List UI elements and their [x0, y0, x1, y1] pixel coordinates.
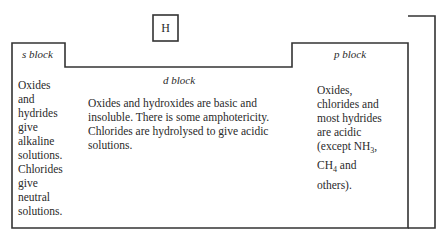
text-line: neutral	[18, 190, 63, 204]
s-block-description: Oxides and hydrides give alkaline soluti…	[18, 78, 63, 218]
p-block-description: Oxides, chlorides and most hydrides are …	[317, 83, 382, 192]
text-line-ch4: CH4 and	[317, 158, 382, 177]
text-line: most hydrides	[317, 111, 382, 125]
p-block-label: p block	[334, 47, 366, 61]
text-line: solutions.	[18, 148, 63, 162]
d-block-description: Oxides and hydroxides are basic and inso…	[88, 96, 269, 152]
s-block-label: s block	[22, 47, 53, 61]
text-line: give	[18, 120, 63, 134]
hydrogen-box: H	[153, 15, 178, 41]
text-line: and	[18, 92, 63, 106]
text-line: alkaline	[18, 134, 63, 148]
text-line: Oxides	[18, 78, 63, 92]
text-line: others).	[317, 178, 382, 192]
text-line: solutions.	[18, 204, 63, 218]
text-line: are acidic	[317, 125, 382, 139]
text-line: solutions.	[88, 138, 269, 152]
text-line: chlorides and	[317, 97, 382, 111]
text-line: hydrides	[18, 106, 63, 120]
text-line: Oxides,	[317, 83, 382, 97]
text-line: Oxides and hydroxides are basic and	[88, 96, 269, 110]
text-line: insoluble. There is some amphotericity.	[88, 110, 269, 124]
text-line: give	[18, 176, 63, 190]
d-block-label: d block	[163, 73, 195, 87]
text-line: Chlorides	[18, 162, 63, 176]
text-line: Chlorides are hydrolysed to give acidic	[88, 124, 269, 138]
text-line-nh3: (except NH3,	[317, 139, 382, 158]
